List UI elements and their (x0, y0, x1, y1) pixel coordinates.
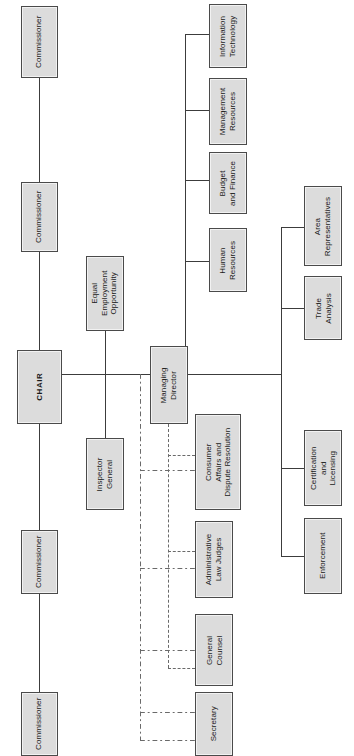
node-area-representatives[interactable]: Area Representatives (304, 186, 342, 266)
node-label: Certification and Licensing (309, 446, 338, 490)
node-enforcement[interactable]: Enforcement (304, 518, 342, 594)
node-chair[interactable]: CHAIR (17, 350, 62, 424)
line-commission-spine-upper (39, 252, 40, 350)
node-label: General Counsel (205, 635, 224, 665)
node-trade-analysis[interactable]: Trade Analysis (304, 276, 342, 340)
node-label-line1: Area (314, 217, 323, 234)
node-commissioner-4[interactable]: Commissioner (21, 692, 58, 756)
line-commission-spine-top (39, 78, 40, 188)
line-right-spine-lower (281, 374, 282, 556)
node-label: Commissioner (35, 536, 45, 588)
node-label: Managing Director (160, 367, 179, 403)
line-commission-spine-bottom (39, 594, 40, 692)
line-inspector-general-stem (105, 374, 106, 438)
node-label: Inspector General (96, 457, 115, 491)
line-md-upper-spine (185, 34, 186, 346)
line-branch-certification-licensing (281, 468, 304, 469)
node-label: Budget and Finance (219, 160, 238, 205)
node-label-line2: Law Judges (214, 538, 223, 582)
node-label: Management Resources (219, 88, 238, 136)
node-label-line2: General (105, 459, 114, 488)
node-label-line3: Licensing (328, 451, 337, 486)
node-label-line1: Inspector (96, 457, 105, 491)
node-commissioner-1[interactable]: Commissioner (21, 6, 58, 78)
node-label-line1: Budget (219, 170, 228, 196)
node-label-line1: Human (219, 247, 228, 273)
node-label: Information Technology (219, 15, 238, 56)
line-dashed-branch-admin-law-judges (168, 551, 195, 552)
line-dashed-md-spine (168, 424, 169, 668)
node-label-line3: Opportunity (110, 272, 119, 314)
node-label: Enforcement (318, 533, 328, 579)
node-label-line2: Resources (228, 92, 237, 131)
node-label: Commissioner (35, 698, 45, 750)
node-label-line1: Managing (160, 367, 169, 403)
node-label-line1: Administrative (205, 534, 214, 586)
node-label-line2: Director (169, 371, 178, 400)
line-dashed-branch-general-counsel (168, 668, 195, 669)
node-label-line2: Employment (100, 271, 109, 316)
line-dashed-branch-consumer-affairs (168, 455, 195, 456)
node-label: Area Representatives (314, 196, 333, 255)
node-label-line1: Secretary (209, 706, 218, 741)
node-administrative-law-judges[interactable]: Administrative Law Judges (195, 521, 233, 598)
node-label-line1: Information (219, 15, 228, 56)
node-label: Equal Employment Opportunity (91, 271, 120, 316)
node-label-line2: and Finance (228, 160, 237, 205)
node-label-line1: Enforcement (318, 533, 327, 579)
line-eeo-stem (105, 331, 106, 375)
node-label-line2: Resources (228, 240, 237, 279)
node-label: Administrative Law Judges (205, 534, 224, 586)
node-label: CHAIR (35, 373, 45, 401)
node-label-line2: Affairs and (213, 442, 222, 481)
org-chart-canvas: Commissioner Commissioner CHAIR Commissi… (0, 0, 354, 756)
node-consumer-affairs-and-dispute-resolution[interactable]: Consumer Affairs and Dispute Resolution (195, 414, 241, 510)
node-label: Secretary (209, 706, 219, 741)
node-human-resources[interactable]: Human Resources (209, 228, 247, 292)
line-md-branch-information-technology (185, 34, 209, 35)
node-inspector-general[interactable]: Inspector General (86, 438, 124, 510)
node-management-resources[interactable]: Management Resources (209, 78, 247, 145)
node-label: Commissioner (35, 191, 45, 243)
node-label-line2: Counsel (214, 635, 223, 665)
node-label: Commissioner (35, 16, 45, 68)
line-branch-enforcement (281, 556, 304, 557)
node-secretary[interactable]: Secretary (195, 692, 233, 756)
node-label-line2: and (318, 461, 327, 475)
node-label-line1: Management (219, 88, 228, 136)
line-branch-trade-analysis (281, 308, 304, 309)
node-commissioner-2[interactable]: Commissioner (21, 182, 58, 252)
node-label-line2: Technology (228, 15, 237, 56)
line-commission-spine-lower (39, 424, 40, 530)
line-md-branch-budget-finance (185, 180, 209, 181)
node-budget-and-finance[interactable]: Budget and Finance (209, 152, 247, 214)
node-equal-employment-opportunity[interactable]: Equal Employment Opportunity (86, 256, 124, 331)
node-label-line1: Trade (314, 297, 323, 318)
line-right-spine-upper (281, 227, 282, 375)
node-label-line2: Analysis (323, 293, 332, 324)
line-md-branch-human-resources (185, 261, 209, 262)
node-general-counsel[interactable]: General Counsel (195, 614, 233, 686)
line-md-branch-management-resources (185, 110, 209, 111)
node-information-technology[interactable]: Information Technology (209, 4, 247, 68)
node-label-line1: Consumer (204, 443, 213, 481)
node-label-line1: General (205, 635, 214, 664)
node-certification-and-licensing[interactable]: Certification and Licensing (304, 430, 342, 506)
node-label-line1: Equal (91, 283, 100, 304)
node-commissioner-3[interactable]: Commissioner (21, 530, 58, 594)
node-label-line1: Certification (309, 446, 318, 490)
node-label: Consumer Affairs and Dispute Resolution (204, 428, 233, 497)
node-label-line3: Dispute Resolution (223, 428, 232, 497)
line-dashdot-chair-spine (140, 374, 141, 740)
node-managing-director[interactable]: Managing Director (150, 346, 188, 424)
node-label-line2: Representatives (323, 196, 332, 255)
line-branch-area-representatives (281, 227, 304, 228)
node-label: Human Resources (219, 240, 238, 279)
node-label: Trade Analysis (314, 293, 333, 324)
